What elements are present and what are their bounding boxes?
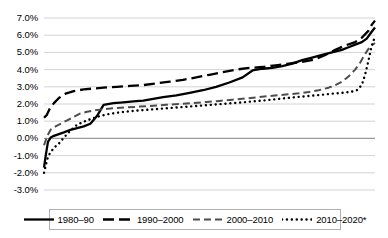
legend-swatch-icon xyxy=(193,215,223,224)
series-line xyxy=(44,43,375,145)
y-axis-tick-label: 5.0% xyxy=(17,47,38,57)
legend-swatch-icon xyxy=(103,215,133,224)
legend-label: 1980–90 xyxy=(58,215,94,225)
legend-label: 2010–2020* xyxy=(316,215,366,225)
legend-swatch-icon xyxy=(282,215,312,224)
legend-label: 1990–2000 xyxy=(137,215,184,225)
plot-area xyxy=(44,18,375,190)
legend-item[interactable]: 2000–2010 xyxy=(193,215,274,225)
y-axis-tick-label: 1.0% xyxy=(17,116,38,126)
y-axis-tick-label: 7.0% xyxy=(17,13,38,23)
series-lines xyxy=(44,18,375,190)
y-axis: 7.0%6.0%5.0%4.0%3.0%2.0%1.0%0.0%-1.0%-2.… xyxy=(0,0,44,238)
legend-swatch-icon xyxy=(24,215,54,224)
legend-item[interactable]: 2010–2020* xyxy=(282,215,366,225)
y-axis-tick-label: 2.0% xyxy=(17,99,38,109)
y-axis-tick-label: -1.0% xyxy=(14,151,38,161)
y-axis-tick-label: -2.0% xyxy=(14,168,38,178)
y-axis-tick-label: 3.0% xyxy=(17,82,38,92)
chart-legend: 1980–901990–20002000–20102010–2020* xyxy=(49,209,341,230)
series-line xyxy=(44,27,375,167)
legend-item[interactable]: 1990–2000 xyxy=(103,215,184,225)
series-line xyxy=(44,37,375,173)
y-axis-tick-label: 0.0% xyxy=(17,133,38,143)
legend-label: 2000–2010 xyxy=(227,215,274,225)
series-line xyxy=(44,21,375,118)
y-axis-tick-label: 6.0% xyxy=(17,30,38,40)
y-axis-tick-label: -3.0% xyxy=(14,185,38,195)
legend-item[interactable]: 1980–90 xyxy=(24,215,94,225)
y-axis-tick-label: 4.0% xyxy=(17,65,38,75)
line-chart: 7.0%6.0%5.0%4.0%3.0%2.0%1.0%0.0%-1.0%-2.… xyxy=(0,0,388,238)
